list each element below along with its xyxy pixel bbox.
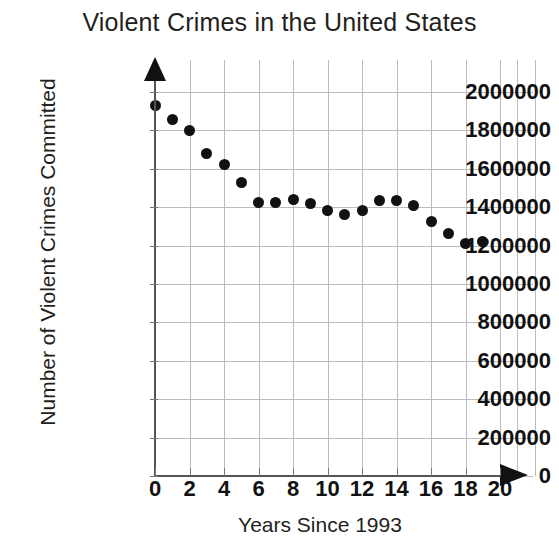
y-tick-label: 1400000 [411,196,559,218]
data-point [357,205,368,216]
x-tick-label: 20 [480,478,520,500]
x-tick-mark [500,468,501,476]
y-axis-label: Number of Violent Crimes Committed [36,52,60,452]
data-point [236,177,247,188]
y-tick-mark [150,361,158,362]
y-tick-label: 2000000 [411,81,559,103]
x-tick-mark [466,468,467,476]
y-axis-line [154,74,156,477]
x-tick-mark [224,468,225,476]
data-point [288,194,299,205]
y-tick-mark [150,322,158,323]
y-tick-label: 800000 [411,311,559,333]
data-point [167,114,178,125]
y-tick-mark [150,169,158,170]
data-point [201,148,212,159]
data-point [219,159,230,170]
y-axis-arrow-icon [144,57,166,81]
x-tick-mark [328,468,329,476]
x-tick-mark [155,468,156,476]
y-tick-mark [150,284,158,285]
y-tick-label: 600000 [411,350,559,372]
y-tick-mark [150,399,158,400]
x-tick-mark [431,468,432,476]
chart-figure: Violent Crimes in the United States Numb… [0,0,559,555]
y-tick-label: 1600000 [411,158,559,180]
data-point [322,205,333,216]
y-tick-mark [150,130,158,131]
x-tick-mark [362,468,363,476]
data-point [253,197,264,208]
x-tick-mark [397,468,398,476]
y-tick-mark [150,207,158,208]
gridline-vertical [224,60,225,476]
x-axis-label: Years Since 1993 [140,513,500,537]
y-tick-label: 1200000 [411,235,559,257]
y-tick-mark [150,92,158,93]
page-title: Violent Crimes in the United States [0,8,559,37]
data-point [184,125,195,136]
y-tick-label: 1800000 [411,119,559,141]
gridline-vertical [397,60,398,476]
data-point [374,195,385,206]
x-tick-mark [190,468,191,476]
gridline-vertical [293,60,294,476]
gridline-vertical [362,60,363,476]
y-tick-label: 1000000 [411,273,559,295]
y-tick-mark [150,246,158,247]
gridline-vertical [190,60,191,476]
x-tick-mark [293,468,294,476]
y-tick-mark [150,438,158,439]
x-tick-mark [259,468,260,476]
y-tick-label: 400000 [411,388,559,410]
y-tick-label: 200000 [411,427,559,449]
gridline-vertical [328,60,329,476]
data-point [391,195,402,206]
data-point [339,209,350,220]
gridline-vertical [259,60,260,476]
data-point [305,198,316,209]
